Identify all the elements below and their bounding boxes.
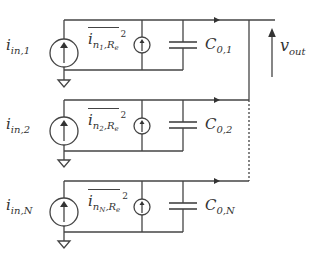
circuit-wires [0, 0, 323, 269]
row-1-branch [50, 20, 275, 87]
noise-source-label-1: in1,Re2 [88, 30, 126, 52]
capacitor-label-1: C0,1 [205, 37, 232, 55]
input-source-label-n: iin,N [6, 198, 32, 216]
noise-source-label-n: inN,Re2 [88, 192, 128, 214]
circuit-diagram: iin,1 in1,Re2 C0,1 iin,2 in2,Re2 C0,2 ii… [0, 0, 323, 269]
capacitor-label-2: C0,2 [205, 117, 232, 135]
capacitor-label-n: C0,N [205, 198, 235, 216]
vout-label: vout [280, 38, 306, 57]
ground-icon [58, 80, 70, 87]
current-arrow-icon [214, 17, 220, 23]
noise-source-label-2: in2,Re2 [88, 111, 126, 133]
input-source-label-1: iin,1 [6, 38, 30, 56]
input-source-label-2: iin,2 [6, 117, 30, 135]
